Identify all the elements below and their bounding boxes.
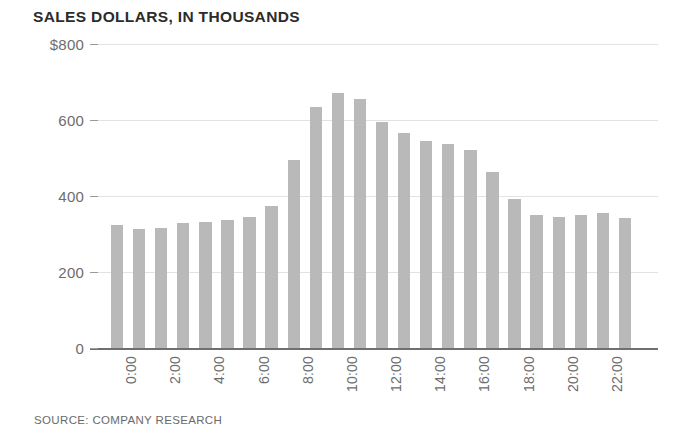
x-tick-label-4-00: 4:00 xyxy=(211,356,227,384)
bar xyxy=(288,160,300,348)
bar xyxy=(310,107,322,348)
bar xyxy=(530,215,542,348)
bar xyxy=(221,220,233,348)
bar xyxy=(111,225,123,349)
bar xyxy=(575,215,587,348)
bar xyxy=(619,218,631,348)
bar xyxy=(597,213,609,348)
bar xyxy=(133,229,145,348)
x-tick-label-20-00: 20:00 xyxy=(565,356,581,392)
bar xyxy=(177,223,189,348)
bar xyxy=(486,172,498,348)
bar xyxy=(243,217,255,348)
source-note: SOURCE: COMPANY RESEARCH xyxy=(34,414,222,426)
bar xyxy=(354,99,366,348)
x-tick-label-16-00: 16:00 xyxy=(476,356,492,392)
bar xyxy=(508,199,520,348)
bar xyxy=(464,150,476,348)
bar xyxy=(420,141,432,348)
sales-dollars-bar-chart: SALES DOLLARS, IN THOUSANDS 0200400600$8… xyxy=(0,0,681,448)
plot-area: 0200400600$800 xyxy=(0,0,681,400)
bar xyxy=(398,133,410,348)
bars xyxy=(0,0,681,400)
x-tick-label-6-00: 6:00 xyxy=(256,356,272,384)
bar xyxy=(155,228,167,348)
bar xyxy=(199,222,211,348)
bar xyxy=(376,122,388,348)
x-tick-label-10-00: 10:00 xyxy=(344,356,360,392)
x-tick-label-0-00: 0:00 xyxy=(123,356,139,384)
x-tick-label-12-00: 12:00 xyxy=(388,356,404,392)
x-axis-labels: 0:002:004:006:008:0010:0012:0014:0016:00… xyxy=(0,352,681,412)
x-tick-label-22-00: 22:00 xyxy=(609,356,625,392)
x-tick-label-18-00: 18:00 xyxy=(521,356,537,392)
bar xyxy=(332,93,344,348)
bar xyxy=(265,206,277,349)
bar xyxy=(553,217,565,348)
x-tick-label-8-00: 8:00 xyxy=(300,356,316,384)
x-tick-label-14-00: 14:00 xyxy=(432,356,448,392)
x-tick-label-2-00: 2:00 xyxy=(167,356,183,384)
bar xyxy=(442,144,454,348)
